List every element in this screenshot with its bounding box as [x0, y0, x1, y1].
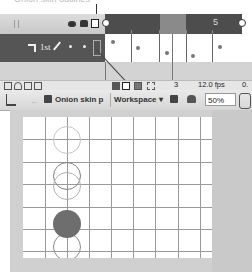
onion-skin-ball-outline	[53, 172, 81, 200]
outline-icon[interactable]	[91, 19, 99, 28]
keyframe[interactable]	[218, 45, 222, 49]
keyframe[interactable]	[165, 51, 169, 55]
center-frame-icon[interactable]	[112, 82, 120, 90]
lock-icon[interactable]	[80, 20, 88, 27]
stage-pasteboard-right	[212, 110, 252, 272]
motion-guide-icon[interactable]	[14, 82, 22, 90]
frame-tick	[131, 30, 132, 34]
zoom-dropdown-icon[interactable]	[239, 93, 251, 109]
new-folder-icon[interactable]	[24, 82, 32, 90]
frame-rate[interactable]: 12.0 fps	[198, 80, 225, 90]
grid-line	[23, 184, 212, 185]
layer-lock-toggle[interactable]	[83, 45, 86, 48]
panel-grip-handle[interactable]	[14, 20, 19, 28]
edit-symbol-icon[interactable]	[187, 95, 196, 103]
onion-skin-outlines-button[interactable]	[122, 82, 130, 90]
stage-canvas[interactable]	[23, 117, 212, 258]
back-arrow-icon[interactable]: ←	[30, 96, 39, 106]
onion-skin-ball-outline	[53, 126, 81, 154]
frame-divider	[159, 34, 160, 62]
scene-icon	[44, 95, 52, 103]
layer-visibility-toggle[interactable]	[69, 45, 72, 48]
separator	[110, 93, 111, 107]
eye-icon[interactable]	[68, 21, 76, 27]
onion-start-marker[interactable]	[102, 19, 110, 27]
keyframe[interactable]	[191, 54, 195, 58]
grid-line	[23, 207, 212, 208]
grid-line	[23, 162, 212, 163]
frame-divider	[186, 34, 187, 62]
timeline-empty-area	[0, 62, 252, 80]
scene-name: Onion skin p	[55, 95, 103, 104]
layer-name[interactable]: 1st	[40, 42, 51, 52]
delete-layer-icon[interactable]	[34, 82, 42, 90]
ball-shape[interactable]	[53, 210, 81, 238]
timeline-toggle-icon[interactable]	[6, 94, 16, 106]
zoom-input[interactable]: 50%	[205, 93, 236, 106]
frame-tick	[186, 30, 187, 34]
keyframe[interactable]	[111, 40, 115, 44]
frame-number-label: 5	[213, 17, 218, 27]
grid-line	[23, 251, 212, 252]
workspace-menu[interactable]: Workspace ▾	[114, 95, 163, 104]
callout-label: Onion skin outlines	[14, 0, 90, 4]
current-frame: 3	[174, 80, 178, 90]
frames-area[interactable]	[105, 34, 242, 63]
edit-multiple-frames-icon[interactable]	[134, 82, 142, 90]
frame-tick	[212, 30, 213, 34]
grid-line	[23, 229, 212, 230]
frame-divider	[212, 34, 213, 62]
grid-line	[23, 139, 212, 140]
frame-tick	[159, 30, 160, 34]
new-layer-icon[interactable]	[4, 82, 12, 90]
keyframe[interactable]	[136, 46, 140, 50]
onion-skin-range[interactable]	[160, 14, 186, 34]
layer-type-icon	[28, 44, 36, 52]
onion-end-marker[interactable]	[238, 19, 246, 27]
playhead[interactable]	[172, 34, 173, 80]
modify-onion-markers-icon[interactable]	[147, 82, 155, 90]
frame-divider	[131, 34, 132, 62]
elapsed-time: 0.	[242, 80, 248, 90]
edit-scene-icon[interactable]	[170, 95, 178, 103]
